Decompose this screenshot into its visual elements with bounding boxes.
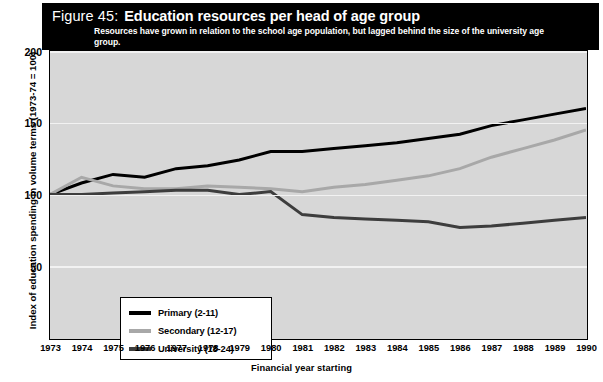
- figure-subtitle: Resources have grown in relation to the …: [94, 26, 564, 47]
- x-tick-label-1974: 1974: [72, 343, 93, 353]
- legend-item-primary[interactable]: Primary (2-11): [129, 304, 271, 322]
- legend-swatch-icon: [129, 329, 151, 332]
- gridline-150: [50, 123, 587, 125]
- x-tick-label-1985: 1985: [419, 343, 440, 353]
- x-tick-label-1976: 1976: [135, 343, 156, 353]
- figure-number: Figure 45:: [52, 8, 118, 24]
- x-tick-label-1981: 1981: [292, 343, 313, 353]
- x-tick-label-1989: 1989: [545, 343, 566, 353]
- legend-item-secondary[interactable]: Secondary (12-17): [129, 322, 271, 340]
- x-axis-ticks: 1973197419751976197719781979198019811982…: [0, 343, 603, 359]
- x-tick-label-1986: 1986: [450, 343, 471, 353]
- legend-swatch-icon: [129, 311, 151, 314]
- x-tick-label-1975: 1975: [103, 343, 124, 353]
- x-axis-title: Financial year starting: [0, 363, 603, 373]
- gridline-50: [50, 266, 587, 268]
- x-tick-label-1983: 1983: [355, 343, 376, 353]
- series-line-secondary: [50, 130, 586, 195]
- x-tick-label-1977: 1977: [166, 343, 187, 353]
- x-tick-label-1984: 1984: [387, 343, 408, 353]
- x-tick-label-1982: 1982: [324, 343, 345, 353]
- x-tick-label-1973: 1973: [40, 343, 61, 353]
- gridline-100: [50, 195, 587, 197]
- x-tick-label-1988: 1988: [513, 343, 534, 353]
- x-tick-label-1990: 1990: [576, 343, 597, 353]
- figure-chart-panel: Figure 45: Education resources per head …: [0, 0, 603, 382]
- x-tick-label-1980: 1980: [261, 343, 282, 353]
- x-tick-label-1978: 1978: [198, 343, 219, 353]
- gridline-200: [50, 51, 587, 53]
- y-axis-title: Index of education spending in volume te…: [27, 41, 38, 341]
- x-tick-label-1979: 1979: [229, 343, 250, 353]
- legend-label: Primary (2-11): [158, 308, 218, 318]
- plot-inner: [50, 51, 587, 339]
- y-axis-ticks: 50100150200: [0, 50, 47, 340]
- legend-label: Secondary (12-17): [158, 326, 236, 336]
- figure-header: Figure 45: Education resources per head …: [42, 3, 599, 50]
- figure-title-line: Figure 45: Education resources per head …: [52, 8, 599, 24]
- plot-area: Primary (2-11)Secondary (12-17)Universit…: [49, 50, 588, 340]
- series-line-primary: [50, 108, 586, 194]
- figure-title: Education resources per head of age grou…: [124, 8, 420, 24]
- x-tick-label-1987: 1987: [482, 343, 503, 353]
